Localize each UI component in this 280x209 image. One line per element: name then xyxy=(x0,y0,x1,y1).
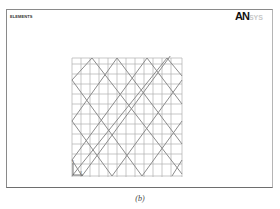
axis-triad: Y X xyxy=(71,160,87,178)
logo-text-faded: SYS xyxy=(249,14,263,21)
grid-lines xyxy=(72,58,182,177)
logo-text: AN xyxy=(235,10,249,22)
y-axis-label: Y xyxy=(72,160,74,164)
figure-caption: (b) xyxy=(0,194,280,203)
ansys-logo: ANSYS xyxy=(235,10,263,22)
mesh-plot[interactable] xyxy=(70,56,186,180)
window-title: ELEMENTS xyxy=(10,14,33,19)
x-axis-label: X xyxy=(80,171,82,175)
